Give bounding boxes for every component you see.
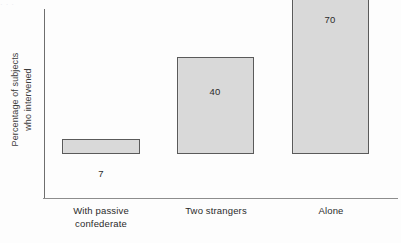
bar-value-with-passive-confederate: 7 bbox=[76, 168, 126, 179]
x-axis-label-line-1: Alone bbox=[281, 204, 381, 217]
x-axis-label-alone: Alone bbox=[281, 204, 381, 217]
x-axis-label-two-strangers: Two strangers bbox=[166, 204, 266, 217]
bar-value-alone: 70 bbox=[305, 14, 355, 25]
bar-two-strangers[interactable] bbox=[177, 57, 254, 154]
plot-area: 7 40 70 bbox=[0, 0, 401, 199]
bar-chart: · · · Percentage of subjects who interve… bbox=[0, 0, 401, 243]
x-axis-label-line-1: Two strangers bbox=[166, 204, 266, 217]
x-axis-label-line-2: confederate bbox=[51, 217, 151, 230]
bar-with-passive-confederate[interactable] bbox=[62, 139, 140, 154]
bar-value-two-strangers: 40 bbox=[190, 86, 240, 97]
x-axis-labels: With passive confederate Two strangers A… bbox=[0, 204, 401, 243]
x-axis-label-line-1: With passive bbox=[51, 204, 151, 217]
x-axis-label-with-passive-confederate: With passive confederate bbox=[51, 204, 151, 230]
